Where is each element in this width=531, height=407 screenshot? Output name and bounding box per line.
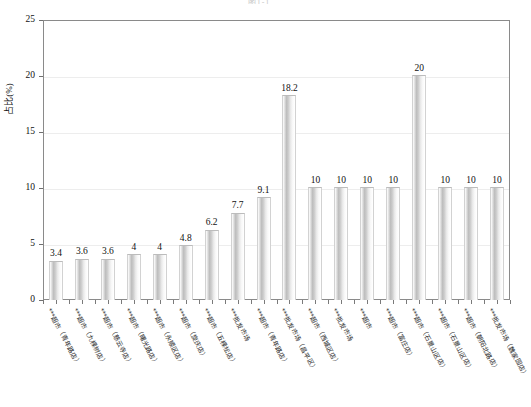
bar[interactable]: [231, 213, 245, 300]
bar-slot[interactable]: 10: [484, 20, 510, 300]
bar-value-label: 7.7: [232, 201, 244, 211]
bar-slot[interactable]: 10: [354, 20, 380, 300]
bar[interactable]: [412, 75, 426, 300]
bar-slot[interactable]: 4: [121, 20, 147, 300]
bar-value-label: 6.2: [206, 218, 218, 228]
bar-slot[interactable]: 10: [302, 20, 328, 300]
bar[interactable]: [101, 259, 115, 300]
bar-value-label: 10: [388, 176, 398, 186]
bar-slot[interactable]: 3.4: [43, 20, 69, 300]
x-axis-label: ***批发市场: [227, 306, 253, 343]
bar-value-label: 4.8: [180, 234, 192, 244]
bar-slot[interactable]: 18.2: [277, 20, 303, 300]
y-tick-label: 5: [0, 239, 35, 249]
bar-slot[interactable]: 3.6: [95, 20, 121, 300]
bar[interactable]: [127, 254, 141, 300]
bar-slot[interactable]: 7.7: [225, 20, 251, 300]
bar-slot[interactable]: 9.1: [251, 20, 277, 300]
bar-slot[interactable]: 10: [458, 20, 484, 300]
bar-value-label: 4: [157, 243, 162, 253]
x-axis-label: ***超市: [356, 306, 376, 331]
bar-value-label: 9.1: [258, 186, 270, 196]
bar-value-label: 3.6: [102, 247, 114, 257]
y-tick-label: 10: [0, 183, 35, 193]
bar[interactable]: [49, 261, 63, 300]
bar-slot[interactable]: 10: [328, 20, 354, 300]
bar-slot[interactable]: 3.6: [69, 20, 95, 300]
y-tick-label: 25: [0, 15, 35, 25]
bar-value-label: 20: [414, 64, 424, 74]
bar-slot[interactable]: 4: [147, 20, 173, 300]
bar[interactable]: [308, 187, 322, 300]
bar-slot[interactable]: 10: [432, 20, 458, 300]
x-axis-label: ***批发市场: [331, 306, 357, 343]
bar-value-label: 10: [363, 176, 373, 186]
y-tick-label: 15: [0, 127, 35, 137]
bar-value-label: 18.2: [281, 84, 298, 94]
bar[interactable]: [386, 187, 400, 300]
bar-value-label: 10: [311, 176, 321, 186]
bar[interactable]: [490, 187, 504, 300]
bar-value-label: 10: [466, 176, 476, 186]
bar-value-label: 3.4: [50, 249, 62, 259]
x-axis-labels: ***超市（青年路店）***超市（九棵树店）***超市（慈云寺店）***超市（曙…: [0, 300, 518, 407]
bar[interactable]: [179, 245, 193, 300]
bar-value-label: 10: [337, 176, 347, 186]
bar[interactable]: [438, 187, 452, 300]
bar[interactable]: [153, 254, 167, 300]
bar-value-label: 10: [440, 176, 450, 186]
bar-value-label: 10: [492, 176, 502, 186]
bar-slot[interactable]: 10: [380, 20, 406, 300]
bar[interactable]: [464, 187, 478, 300]
bar[interactable]: [257, 197, 271, 300]
bar[interactable]: [334, 187, 348, 300]
chart-title: 图1-1: [0, 0, 518, 4]
bar-value-label: 4: [131, 243, 136, 253]
bar-slot[interactable]: 20: [406, 20, 432, 300]
bars-layer: 3.43.63.6444.86.27.79.118.21010101020101…: [43, 20, 510, 300]
bar-slot[interactable]: 6.2: [199, 20, 225, 300]
bar[interactable]: [282, 95, 296, 300]
bar[interactable]: [205, 230, 219, 300]
bar[interactable]: [360, 187, 374, 300]
y-tick-label: 20: [0, 71, 35, 81]
bar-slot[interactable]: 4.8: [173, 20, 199, 300]
bar-value-label: 3.6: [76, 247, 88, 257]
bar[interactable]: [75, 259, 89, 300]
